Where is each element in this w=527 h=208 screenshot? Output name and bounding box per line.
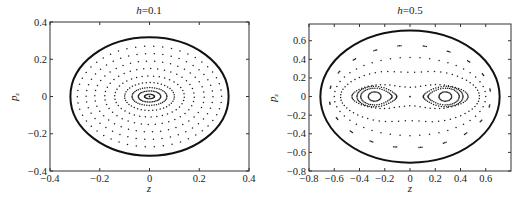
- y-tick-label: 0: [301, 91, 306, 102]
- x-tick-label: −0.6: [325, 173, 344, 184]
- plot-area: [320, 31, 499, 163]
- x-tick-label: 0.4: [242, 173, 256, 184]
- x-tick-label: −0.2: [90, 173, 109, 184]
- x-axis-label: z: [407, 182, 413, 194]
- y-tick-label: −0.2: [28, 128, 47, 139]
- figure: h=0.1 −0.4−0.200.20.4 −0.4−0.200.20.4 z …: [0, 0, 527, 208]
- x-tick-label: −0.2: [375, 173, 394, 184]
- y-tick-label: −0.8: [287, 166, 306, 177]
- chart-panel-h-0.1: h=0.1 −0.4−0.200.20.4 −0.4−0.200.20.4 z …: [7, 4, 256, 194]
- x-axis-label: z: [146, 182, 152, 194]
- axes-frame: [309, 24, 511, 171]
- chart-panel-h-0.5: h=0.5 −0.8−0.6−0.4−0.200.20.40.6 −0.8−0.…: [266, 4, 511, 194]
- y-axis-label: pz: [266, 94, 280, 104]
- y-tick-label: 0.2: [293, 72, 306, 83]
- chart-title: h=0.1: [136, 4, 161, 16]
- y-tick-label: 0: [42, 91, 47, 102]
- y-tick-label: −0.2: [287, 110, 306, 121]
- x-tick-label: 0.4: [454, 173, 468, 184]
- x-tick-label: 0.2: [193, 173, 206, 184]
- x-axis: −0.4−0.200.20.4: [40, 22, 256, 184]
- y-tick-label: −0.6: [287, 147, 306, 158]
- chart-title: h=0.5: [397, 4, 423, 16]
- y-tick-label: 0.6: [293, 35, 306, 46]
- y-tick-label: 0.2: [34, 54, 47, 65]
- x-axis: −0.8−0.6−0.4−0.200.20.40.6: [299, 24, 492, 184]
- y-tick-label: −0.4: [28, 166, 48, 177]
- plot-area: [70, 37, 228, 155]
- x-tick-label: 0.6: [479, 173, 492, 184]
- y-tick-label: 0.4: [293, 54, 307, 65]
- y-tick-label: 0.4: [34, 17, 48, 28]
- y-axis-label: pz: [7, 93, 21, 103]
- y-tick-label: −0.4: [287, 128, 307, 139]
- x-tick-label: 0.2: [429, 173, 442, 184]
- x-tick-label: −0.4: [350, 173, 370, 184]
